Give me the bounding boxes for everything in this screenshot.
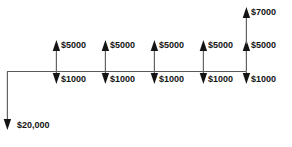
period-3-group: $5000 $1000 [151, 40, 184, 84]
arrow-down-icon [102, 73, 109, 84]
period-2-inflow-label: $5000 [110, 40, 135, 50]
arrow-up-icon [53, 40, 60, 51]
period-5-outflow-label: $1000 [251, 74, 276, 84]
period-4-outflow-label: $1000 [208, 74, 233, 84]
initial-investment-arrow [4, 72, 11, 131]
cash-flow-diagram: $20,000 $5000 $1000 $5000 $1000 $5000 [0, 0, 292, 147]
arrow-up-icon [151, 40, 158, 51]
period-4-group: $5000 $1000 [200, 40, 233, 84]
period-3-outflow-label: $1000 [159, 74, 184, 84]
arrow-down-icon [4, 119, 11, 130]
period-2-group: $5000 $1000 [102, 40, 135, 84]
arrow-up-icon [102, 40, 109, 51]
period-1-inflow-label: $5000 [61, 40, 86, 50]
arrow-down-icon [200, 73, 207, 84]
period-5-salvage-label: $7000 [251, 7, 276, 17]
period-5-group: $5000 $7000 $1000 [243, 7, 276, 84]
period-2-outflow-label: $1000 [110, 74, 135, 84]
arrow-down-icon [53, 73, 60, 84]
arrow-down-icon [151, 73, 158, 84]
period-3-inflow-label: $5000 [159, 40, 184, 50]
initial-investment-label: $20,000 [17, 120, 50, 130]
period-1-outflow-label: $1000 [61, 74, 86, 84]
period-5-inflow-label: $5000 [251, 40, 276, 50]
arrow-up-icon [243, 7, 250, 18]
cash-flow-svg: $20,000 $5000 $1000 $5000 $1000 $5000 [0, 0, 292, 147]
arrow-up-icon [200, 40, 207, 51]
period-4-inflow-label: $5000 [208, 40, 233, 50]
arrow-down-icon [243, 73, 250, 84]
period-1-group: $5000 $1000 [53, 40, 86, 84]
